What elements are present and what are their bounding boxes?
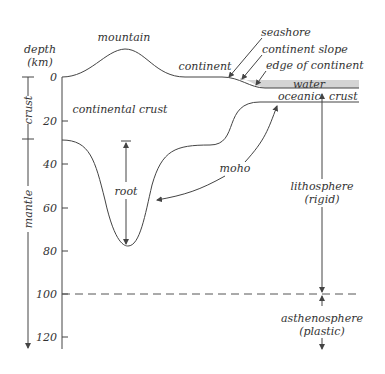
label-continent: continent <box>179 60 232 73</box>
earth-crust-cross-section-diagram: depth (km) 0 20 40 60 80 100 120 crust m… <box>0 0 385 374</box>
bracket-label-mantle: mantle <box>22 189 35 228</box>
label-root: root <box>115 185 139 198</box>
label-crust: crust <box>329 90 358 103</box>
tick-20: 20 <box>42 115 57 128</box>
label-rigid: (rigid) <box>305 193 340 206</box>
label-continental-crust: continental crust <box>72 103 168 116</box>
axis-title-depth: depth <box>24 43 56 56</box>
label-lithosphere: lithosphere <box>290 180 354 193</box>
layer-bracket: crust mantle <box>22 77 35 348</box>
tick-100: 100 <box>36 288 57 301</box>
label-plastic: (plastic) <box>299 325 344 338</box>
label-edge-of-continent: edge of continent <box>266 59 364 72</box>
axis-title-unit: (km) <box>27 56 53 69</box>
tick-80: 80 <box>43 245 57 258</box>
tick-120: 120 <box>36 331 57 344</box>
tick-40: 40 <box>42 158 57 171</box>
label-moho: moho <box>220 162 251 175</box>
tick-0: 0 <box>50 71 57 84</box>
label-mountain: mountain <box>98 31 151 44</box>
label-oceanic: oceanic <box>278 90 321 103</box>
label-continent-slope: continent slope <box>262 43 348 56</box>
depth-axis: 0 20 40 60 80 100 120 <box>36 71 68 349</box>
label-asthenosphere: asthenosphere <box>281 312 363 325</box>
tick-60: 60 <box>43 202 57 215</box>
bracket-label-crust: crust <box>22 95 35 124</box>
label-seashore: seashore <box>261 26 311 39</box>
